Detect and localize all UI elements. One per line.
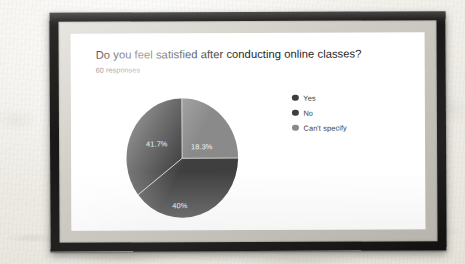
pie-label-no: 40%	[172, 201, 187, 210]
pie-chart-svg: 41.7% 18.3% 40%	[124, 98, 241, 223]
screen-panel: Do you feel satisfied after conducting o…	[71, 32, 426, 231]
pie-chart: 41.7% 18.3% 40%	[124, 98, 241, 223]
monitor-bezel: Do you feel satisfied after conducting o…	[49, 11, 446, 252]
legend-label-yes: Yes	[303, 93, 315, 102]
legend-dot-icon	[292, 125, 299, 132]
chart-legend: Yes No Can't specify	[292, 91, 402, 136]
photo-background: Do you feel satisfied after conducting o…	[0, 0, 465, 264]
legend-label-cant-specify: Can't specify	[303, 123, 346, 132]
legend-dot-icon	[292, 110, 299, 117]
question-title: Do you feel satisfied after conducting o…	[96, 48, 362, 62]
legend-item-yes[interactable]: Yes	[292, 91, 402, 103]
response-count: 60 responses	[96, 65, 140, 74]
legend-item-no[interactable]: No	[292, 106, 402, 118]
pie-label-yes: 41.7%	[146, 139, 168, 148]
legend-item-cant-specify[interactable]: Can't specify	[292, 121, 402, 133]
legend-label-no: No	[303, 108, 313, 117]
pie-label-cant-specify: 18.3%	[191, 142, 213, 151]
bezel-inner-lip: Do you feel satisfied after conducting o…	[59, 20, 438, 243]
form-response-card: Do you feel satisfied after conducting o…	[71, 32, 426, 231]
legend-dot-icon	[292, 95, 299, 102]
